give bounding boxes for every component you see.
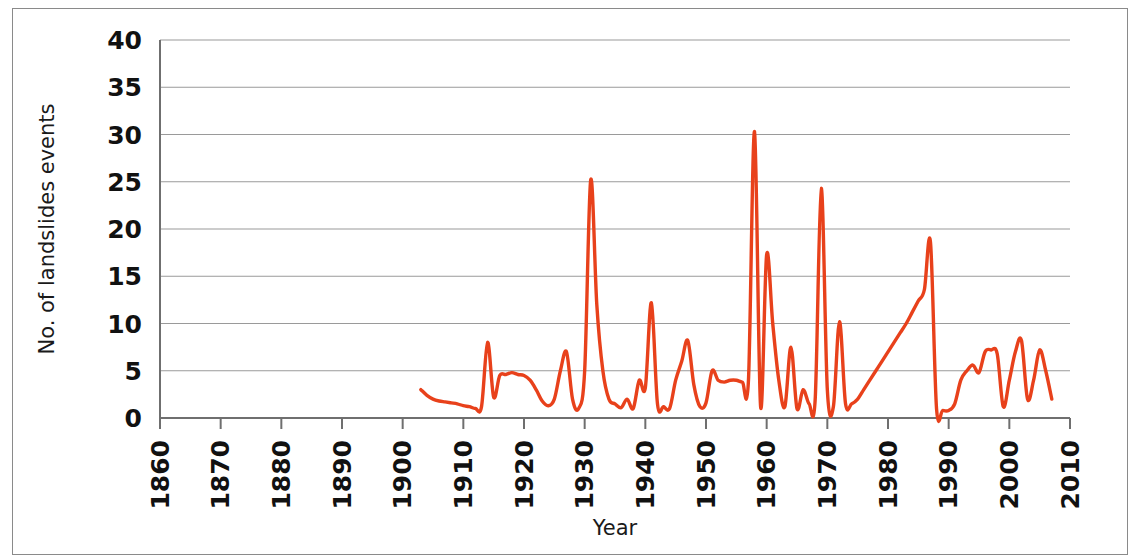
y-tick-label: 30: [107, 121, 142, 150]
x-axis-title: Year: [592, 516, 638, 540]
x-tick-label: 2010: [1056, 440, 1085, 510]
x-tick-label: 1900: [388, 440, 417, 510]
figure-container: 0510152025303540 18601870188018901900191…: [0, 0, 1142, 557]
x-tick-label: 1870: [206, 440, 235, 510]
y-tick-label: 10: [107, 310, 142, 339]
x-tick-label: 1890: [328, 440, 357, 510]
y-tick-label: 25: [107, 168, 142, 197]
y-axis-title: No. of landslides events: [35, 103, 59, 354]
y-tick-label: 15: [107, 262, 142, 291]
y-tick-labels: 0510152025303540: [107, 26, 142, 433]
x-tick-labels: 1860187018801890190019101920193019401950…: [146, 440, 1085, 510]
x-tick-label: 1970: [813, 440, 842, 510]
y-tick-label: 5: [125, 357, 142, 386]
x-tick-label: 1990: [934, 440, 963, 510]
x-tick-label: 2000: [995, 440, 1024, 510]
x-tick-label: 1880: [267, 440, 296, 510]
x-tick-label: 1950: [692, 440, 721, 510]
x-tick-label: 1960: [752, 440, 781, 510]
x-tick-label: 1940: [631, 440, 660, 510]
x-tick-label: 1980: [874, 440, 903, 510]
x-tick-label: 1910: [449, 440, 478, 510]
x-tick-label: 1930: [570, 440, 599, 510]
x-tick-label: 1860: [146, 440, 175, 510]
x-tick-label: 1920: [510, 440, 539, 510]
y-tick-label: 20: [107, 215, 142, 244]
y-tick-label: 0: [125, 404, 142, 433]
landslide-events-line-chart: 0510152025303540 18601870188018901900191…: [0, 0, 1142, 557]
y-tick-label: 40: [107, 26, 142, 55]
x-axis: [160, 418, 1070, 429]
y-tick-label: 35: [107, 73, 142, 102]
